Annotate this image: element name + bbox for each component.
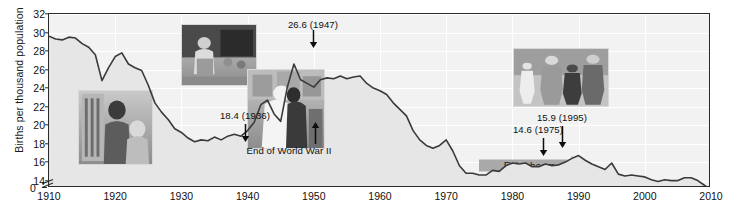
x-tick-label: 1990 <box>567 190 590 202</box>
y-tick-mark <box>45 124 49 125</box>
y-tick-label: 22 <box>33 101 45 113</box>
chart-annotation-label: 15.9 (1995) <box>537 112 587 123</box>
y-tick-mark <box>45 32 49 33</box>
annotation-arrow-down-icon <box>241 124 250 142</box>
plot-area: Demographic transitionDepressionBaby boo… <box>48 13 710 187</box>
y-tick-mark <box>45 13 49 14</box>
x-tick-label: 1930 <box>170 190 193 202</box>
x-tick-label: 2000 <box>633 190 656 202</box>
x-tick-label: 1950 <box>302 190 325 202</box>
x-tick-label: 1960 <box>368 190 391 202</box>
y-axis-title: Births per thousand population <box>13 0 25 165</box>
y-tick-mark <box>45 106 49 107</box>
y-tick-label: 28 <box>33 45 45 57</box>
chart-annotation-label: 14.6 (1975) <box>513 124 563 135</box>
annotation-arrow-down-icon <box>309 30 318 48</box>
chart-annotation-label: End of World War II <box>246 145 331 156</box>
chart-annotation-label: 26.6 (1947) <box>288 19 338 30</box>
x-tick-label: 1940 <box>236 190 259 202</box>
x-tick-label: 1910 <box>37 190 60 202</box>
annotation-arrow-up-icon <box>311 122 320 144</box>
y-tick-mark <box>45 87 49 88</box>
y-tick-label: 18 <box>33 138 45 150</box>
birth-rate-line <box>49 36 709 186</box>
y-tick-mark <box>45 161 49 162</box>
birth-rate-chart: Births per thousand population Demograph… <box>0 0 734 214</box>
y-tick-label: 20 <box>33 119 45 131</box>
y-tick-label: 32 <box>33 8 45 20</box>
chart-annotation-label: 18.4 (1936) <box>220 110 270 121</box>
y-tick-label: 24 <box>33 82 45 94</box>
y-tick-label: 30 <box>33 27 45 39</box>
y-tick-zero-mark <box>42 187 47 188</box>
y-tick-zero: 0 <box>30 182 36 194</box>
x-tick-label: 1970 <box>435 190 458 202</box>
x-tick-label: 2010 <box>699 190 722 202</box>
y-tick-mark <box>45 69 49 70</box>
y-tick-mark <box>45 50 49 51</box>
y-tick-label: 16 <box>33 156 45 168</box>
annotation-arrow-down-icon <box>539 138 548 156</box>
x-tick-label: 1980 <box>501 190 524 202</box>
x-tick-label: 1920 <box>104 190 127 202</box>
plot-clip: Demographic transitionDepressionBaby boo… <box>49 14 709 186</box>
data-line <box>49 14 709 186</box>
y-tick-label: 26 <box>33 64 45 76</box>
y-tick-mark <box>45 143 49 144</box>
annotation-arrow-down-icon <box>558 126 567 148</box>
